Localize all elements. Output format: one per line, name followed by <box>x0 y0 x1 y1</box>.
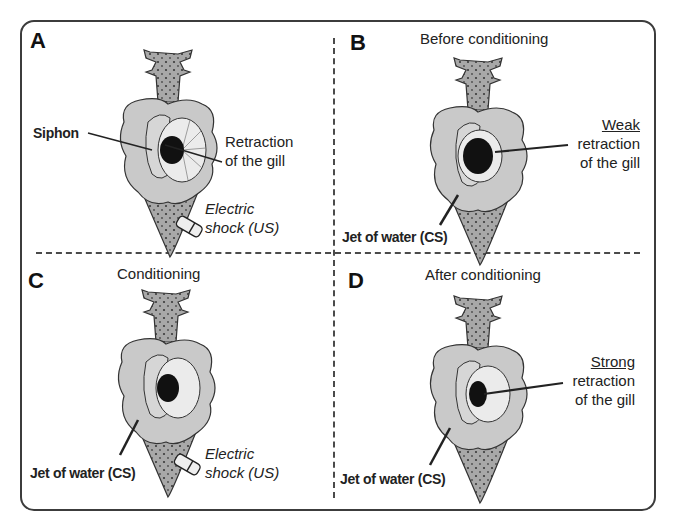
strength-label: Strong <box>555 353 635 371</box>
electric-shock-label-line1: Electric <box>205 200 254 218</box>
panel-letter: B <box>350 30 366 56</box>
panel-title: After conditioning <box>425 266 541 283</box>
strength-label: Weak <box>560 116 640 134</box>
gill-core <box>463 138 493 174</box>
retraction-label-line2: of the gill <box>225 152 285 170</box>
aplysia-organism-illustration <box>450 298 510 488</box>
panel-letter: C <box>28 268 44 294</box>
electric-shock-label-line2: shock (US) <box>205 219 279 237</box>
gill-core <box>157 374 179 402</box>
vertical-divider <box>333 38 335 498</box>
electric-shock-label-line2: shock (US) <box>205 464 279 482</box>
jet-of-water-label: Jet of water (CS) <box>342 228 447 246</box>
panel-title: Conditioning <box>117 265 200 282</box>
retraction-label-line1: Retraction <box>225 133 293 151</box>
jet-of-water-label: Jet of water (CS) <box>340 470 445 488</box>
electric-shock-label-line1: Electric <box>205 445 254 463</box>
panel-letter: D <box>348 268 364 294</box>
aplysia-organism-illustration <box>140 52 200 252</box>
retraction-label-line2: of the gill <box>560 154 640 172</box>
gill-core <box>469 381 487 407</box>
panel-title: Before conditioning <box>420 30 548 47</box>
retraction-label-line2: of the gill <box>555 391 635 409</box>
retraction-label-line1: retraction <box>555 372 635 390</box>
horizontal-divider <box>36 252 640 254</box>
gill-core <box>160 136 184 164</box>
panel-letter: A <box>30 28 46 54</box>
siphon-label: Siphon <box>33 124 79 142</box>
jet-of-water-label: Jet of water (CS) <box>30 464 135 482</box>
aplysia-organism-illustration <box>450 60 510 250</box>
retraction-label-line1: retraction <box>560 135 640 153</box>
aplysia-organism-illustration <box>138 292 198 492</box>
figure-frame <box>20 20 656 511</box>
